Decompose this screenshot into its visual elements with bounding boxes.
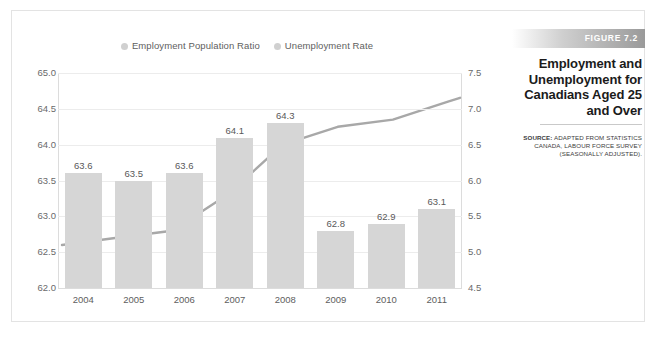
bar (418, 209, 455, 288)
x-axis-tick: 2009 (311, 294, 362, 305)
y-axis-left-tick: 62.5 (16, 246, 56, 257)
x-axis-tick: 2005 (109, 294, 160, 305)
figure-banner: FIGURE 7.2 (512, 29, 645, 48)
bar (317, 231, 354, 288)
y-axis-left-tick: 63.0 (16, 210, 56, 221)
x-axis-line (58, 288, 462, 289)
plot-area: 65.064.564.063.563.062.562.07.57.06.56.0… (58, 73, 462, 288)
y-axis-right-tick: 4.5 (468, 282, 508, 293)
y-axis-left-tick: 63.5 (16, 175, 56, 186)
gridline (58, 109, 462, 110)
bar-value-label: 64.3 (267, 110, 304, 121)
legend-item-2: Unemployment Rate (274, 40, 373, 51)
bar-value-label: 64.1 (216, 125, 253, 136)
chart-legend: Employment Population RatioUnemployment … (12, 39, 482, 51)
bar (166, 173, 203, 288)
source-lead: SOURCE: (523, 134, 552, 141)
legend-item-1: Employment Population Ratio (121, 40, 260, 51)
bar-value-label: 63.6 (65, 160, 102, 171)
figure-source: SOURCE: ADAPTED FROM STATISTICS CANADA, … (519, 134, 642, 159)
bar (115, 181, 152, 289)
x-axis-tick: 2004 (58, 294, 109, 305)
bar (368, 224, 405, 289)
y-axis-left-tick: 62.0 (16, 282, 56, 293)
legend-marker-icon (121, 43, 128, 50)
bar (267, 123, 304, 288)
y-axis-left-tick: 64.5 (16, 103, 56, 114)
y-axis-right-tick: 7.0 (468, 103, 508, 114)
y-axis-right-tick: 6.0 (468, 175, 508, 186)
x-axis-tick: 2006 (159, 294, 210, 305)
gridline (58, 73, 462, 74)
y-axis-right-tick: 5.0 (468, 246, 508, 257)
legend-label: Unemployment Rate (285, 40, 373, 51)
legend-label: Employment Population Ratio (132, 40, 260, 51)
figure-number-label: FIGURE 7.2 (585, 33, 638, 43)
y-axis-right-tick: 6.5 (468, 139, 508, 150)
figure-page: Employment Population RatioUnemployment … (0, 0, 657, 348)
x-axis-tick: 2008 (260, 294, 311, 305)
y-axis-left-tick: 64.0 (16, 139, 56, 150)
bar (216, 138, 253, 289)
bar-value-label: 63.6 (166, 160, 203, 171)
caption-divider (540, 124, 642, 125)
bar-value-label: 62.8 (317, 218, 354, 229)
y-axis-left-tick: 65.0 (16, 67, 56, 78)
chart-panel: Employment Population RatioUnemployment … (12, 11, 502, 321)
x-axis-tick: 2011 (412, 294, 463, 305)
y-axis-right-tick: 5.5 (468, 210, 508, 221)
bar-value-label: 62.9 (368, 211, 405, 222)
caption-panel: FIGURE 7.2 Employment and Unemployment f… (503, 11, 645, 321)
legend-marker-icon (274, 43, 281, 50)
y-axis-right-tick: 7.5 (468, 67, 508, 78)
bar-value-label: 63.5 (115, 168, 152, 179)
bar (65, 173, 102, 288)
x-axis-tick: 2007 (210, 294, 261, 305)
gridline (58, 145, 462, 146)
figure-title: Employment and Unemployment for Canadian… (509, 56, 642, 118)
x-axis-tick: 2010 (361, 294, 412, 305)
bar-value-label: 63.1 (418, 196, 455, 207)
